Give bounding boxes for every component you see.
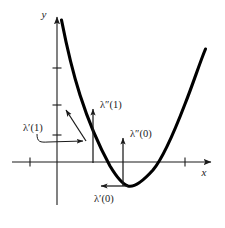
figure-container: y x λ′(1) λ″(1) λ″(0) λ′(0) [0,0,225,228]
parabola-curve-group [62,20,206,186]
parabola-curve [62,20,206,186]
x-axis-label: x [201,166,207,178]
lambda-prime-1-arrow-shaft [66,110,86,141]
lambda-prime-1-vector [66,110,86,141]
lambda-double-prime-1-label: λ″(1) [100,99,122,111]
lambda-prime-1-label: λ′(1) [23,122,43,134]
lambda-prime-0-label: λ′(0) [94,193,114,205]
tick-marks-group [30,68,185,167]
lambda-double-prime-0-label: λ″(0) [130,128,152,140]
y-axis-label: y [41,8,47,20]
derivative-vectors-figure: y x λ′(1) λ″(1) λ″(0) λ′(0) [0,0,225,228]
